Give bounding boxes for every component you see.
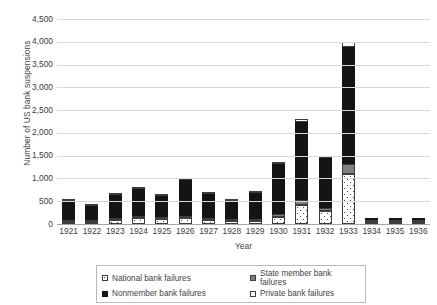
x-axis-title: Year: [57, 241, 430, 251]
stacked-bar[interactable]: [249, 191, 262, 224]
gridline: [57, 42, 430, 43]
x-tick-label: 1936: [407, 226, 430, 236]
bar-segment-nonmember: [249, 193, 262, 219]
bar-group: [290, 19, 313, 224]
x-tick-label: 1932: [313, 226, 336, 236]
legend-swatch-nonmember: [102, 291, 108, 297]
bar-segment-national: [272, 217, 285, 224]
bar-segment-nonmember: [132, 189, 145, 216]
stacked-bar[interactable]: [225, 199, 238, 224]
bar-segment-national: [319, 211, 332, 224]
gridline: [57, 201, 430, 202]
gridline: [57, 65, 430, 66]
bar-group: [80, 19, 103, 224]
bar-group: [244, 19, 267, 224]
bar-segment-national: [295, 205, 308, 224]
x-tick-label: 1929: [244, 226, 267, 236]
legend-label: National bank failures: [112, 274, 191, 283]
stacked-bar[interactable]: [272, 162, 285, 224]
x-tick-label: 1931: [290, 226, 313, 236]
legend-swatch-private: [250, 291, 256, 297]
stacked-bar[interactable]: [85, 204, 98, 224]
y-tick-label: 3,000: [13, 83, 53, 91]
legend-swatch-national: [102, 275, 108, 281]
x-tick-label: 1924: [127, 226, 150, 236]
x-tick-label: 1934: [360, 226, 383, 236]
y-tick-label: 4,000: [13, 37, 53, 45]
plot-area: [57, 19, 430, 224]
stacked-bar[interactable]: [155, 194, 168, 224]
legend-label: Private bank failures: [260, 289, 334, 298]
bar-group: [337, 19, 360, 224]
bar-segment-national: [342, 174, 355, 224]
legend-item-state[interactable]: State member bank failures: [250, 269, 360, 287]
gridline: [57, 110, 430, 111]
bar-segment-nonmember: [85, 206, 98, 220]
bar-segment-nonmember: [225, 201, 238, 220]
bar-group: [197, 19, 220, 224]
bar-series-container: [57, 19, 430, 224]
stacked-bar[interactable]: [202, 192, 215, 224]
x-tick-label: 1921: [57, 226, 80, 236]
bar-segment-nonmember: [272, 164, 285, 214]
y-tick-label: 0: [13, 220, 53, 228]
bank-suspensions-chart: Number of US bank suspensions 1921192219…: [0, 0, 437, 305]
x-tick-label: 1928: [220, 226, 243, 236]
stacked-bar[interactable]: [132, 187, 145, 224]
bar-segment-nonmember: [155, 196, 168, 217]
x-tick-label: 1933: [337, 226, 360, 236]
bar-segment-nonmember: [319, 158, 332, 208]
gridline: [57, 178, 430, 179]
gridline: [57, 87, 430, 88]
x-tick-label: 1923: [104, 226, 127, 236]
y-tick-label: 3,500: [13, 60, 53, 68]
stacked-bar[interactable]: [109, 193, 122, 224]
bar-group: [150, 19, 173, 224]
x-tick-label: 1930: [267, 226, 290, 236]
bar-group: [220, 19, 243, 224]
y-tick-label: 2,000: [13, 128, 53, 136]
x-axis-line: [57, 224, 430, 225]
legend-item-private[interactable]: Private bank failures: [250, 289, 360, 298]
x-tick-label: 1922: [80, 226, 103, 236]
bar-group: [127, 19, 150, 224]
bar-group: [57, 19, 80, 224]
bar-group: [267, 19, 290, 224]
gridline: [57, 19, 430, 20]
y-tick-label: 1,000: [13, 174, 53, 182]
y-tick-label: 4,500: [13, 15, 53, 23]
bar-group: [104, 19, 127, 224]
x-tick-label: 1927: [197, 226, 220, 236]
legend-label: Nonmember bank failures: [112, 289, 206, 298]
bar-segment-nonmember: [179, 180, 192, 216]
legend-label: State member bank failures: [260, 269, 360, 287]
stacked-bar[interactable]: [319, 156, 332, 224]
gridline: [57, 156, 430, 157]
bar-group: [174, 19, 197, 224]
gridline: [57, 133, 430, 134]
legend-item-nonmember[interactable]: Nonmember bank failures: [102, 289, 250, 298]
stacked-bar[interactable]: [62, 199, 75, 224]
bar-segment-nonmember: [109, 195, 122, 218]
y-tick-label: 1,500: [13, 151, 53, 159]
bar-group: [360, 19, 383, 224]
y-tick-label: 2,500: [13, 106, 53, 114]
x-axis-tick-labels: 1921192219231924192519261927192819291930…: [57, 226, 430, 236]
bar-group: [313, 19, 336, 224]
x-tick-label: 1926: [174, 226, 197, 236]
chart-legend: National bank failuresState member bank …: [96, 265, 366, 303]
bar-segment-nonmember: [62, 201, 75, 220]
bar-segment-state: [342, 164, 355, 174]
bar-group: [407, 19, 430, 224]
x-tick-label: 1935: [383, 226, 406, 236]
x-tick-label: 1925: [150, 226, 173, 236]
bar-group: [383, 19, 406, 224]
legend-swatch-state: [250, 275, 256, 281]
y-tick-label: 500: [13, 197, 53, 205]
legend-item-national[interactable]: National bank failures: [102, 269, 250, 287]
stacked-bar[interactable]: [295, 119, 308, 224]
bar-segment-nonmember: [202, 194, 215, 218]
